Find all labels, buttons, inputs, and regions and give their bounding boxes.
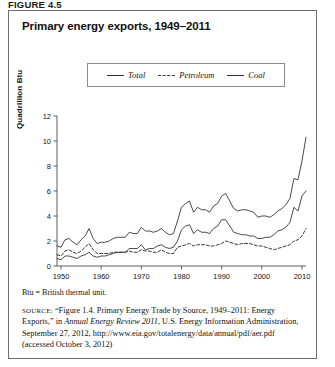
legend-item-total: Total xyxy=(107,70,145,80)
svg-text:2: 2 xyxy=(47,237,51,246)
source-tag: SOURCE: xyxy=(22,307,53,314)
figure-label: FIGURE 4.5 xyxy=(8,0,62,9)
legend-swatch-total-icon xyxy=(107,75,124,76)
svg-text:2010: 2010 xyxy=(294,272,311,281)
svg-text:10: 10 xyxy=(43,137,51,146)
svg-text:1980: 1980 xyxy=(173,272,190,281)
legend-item-petroleum: Petroleum xyxy=(158,70,214,80)
svg-text:1990: 1990 xyxy=(213,272,230,281)
chart-plot-area: 0246810121950196019701980199020002010 xyxy=(9,97,318,282)
series-line-petroleum xyxy=(57,229,306,257)
legend-label-coal: Coal xyxy=(248,70,265,80)
svg-text:1960: 1960 xyxy=(93,272,110,281)
svg-text:1970: 1970 xyxy=(133,272,150,281)
chart-footnote: Btu = British thermal unit. xyxy=(22,288,107,297)
svg-text:8: 8 xyxy=(47,162,51,171)
legend-swatch-coal-icon xyxy=(227,75,244,76)
chart-legend: Total Petroleum Coal xyxy=(87,63,285,87)
chart-title: Primary energy exports, 1949–2011 xyxy=(22,20,211,32)
legend-label-total: Total xyxy=(128,70,145,80)
svg-text:4: 4 xyxy=(47,212,51,221)
legend-swatch-petroleum-icon xyxy=(158,75,175,76)
svg-text:0: 0 xyxy=(47,262,51,271)
series-line-coal xyxy=(57,191,306,260)
figure-panel: Primary energy exports, 1949–2011 Total … xyxy=(8,10,317,359)
source-citation: SOURCE: “Figure 1.4. Primary Energy Trad… xyxy=(22,305,307,351)
legend-label-petroleum: Petroleum xyxy=(179,70,214,80)
line-chart: 0246810121950196019701980199020002010 xyxy=(9,97,318,282)
legend-item-coal: Coal xyxy=(227,70,265,80)
source-publication-title: Annual Energy Review 2011 xyxy=(64,317,158,326)
svg-text:1950: 1950 xyxy=(53,272,70,281)
svg-text:12: 12 xyxy=(43,112,51,121)
svg-text:6: 6 xyxy=(47,187,51,196)
svg-text:2000: 2000 xyxy=(253,272,270,281)
